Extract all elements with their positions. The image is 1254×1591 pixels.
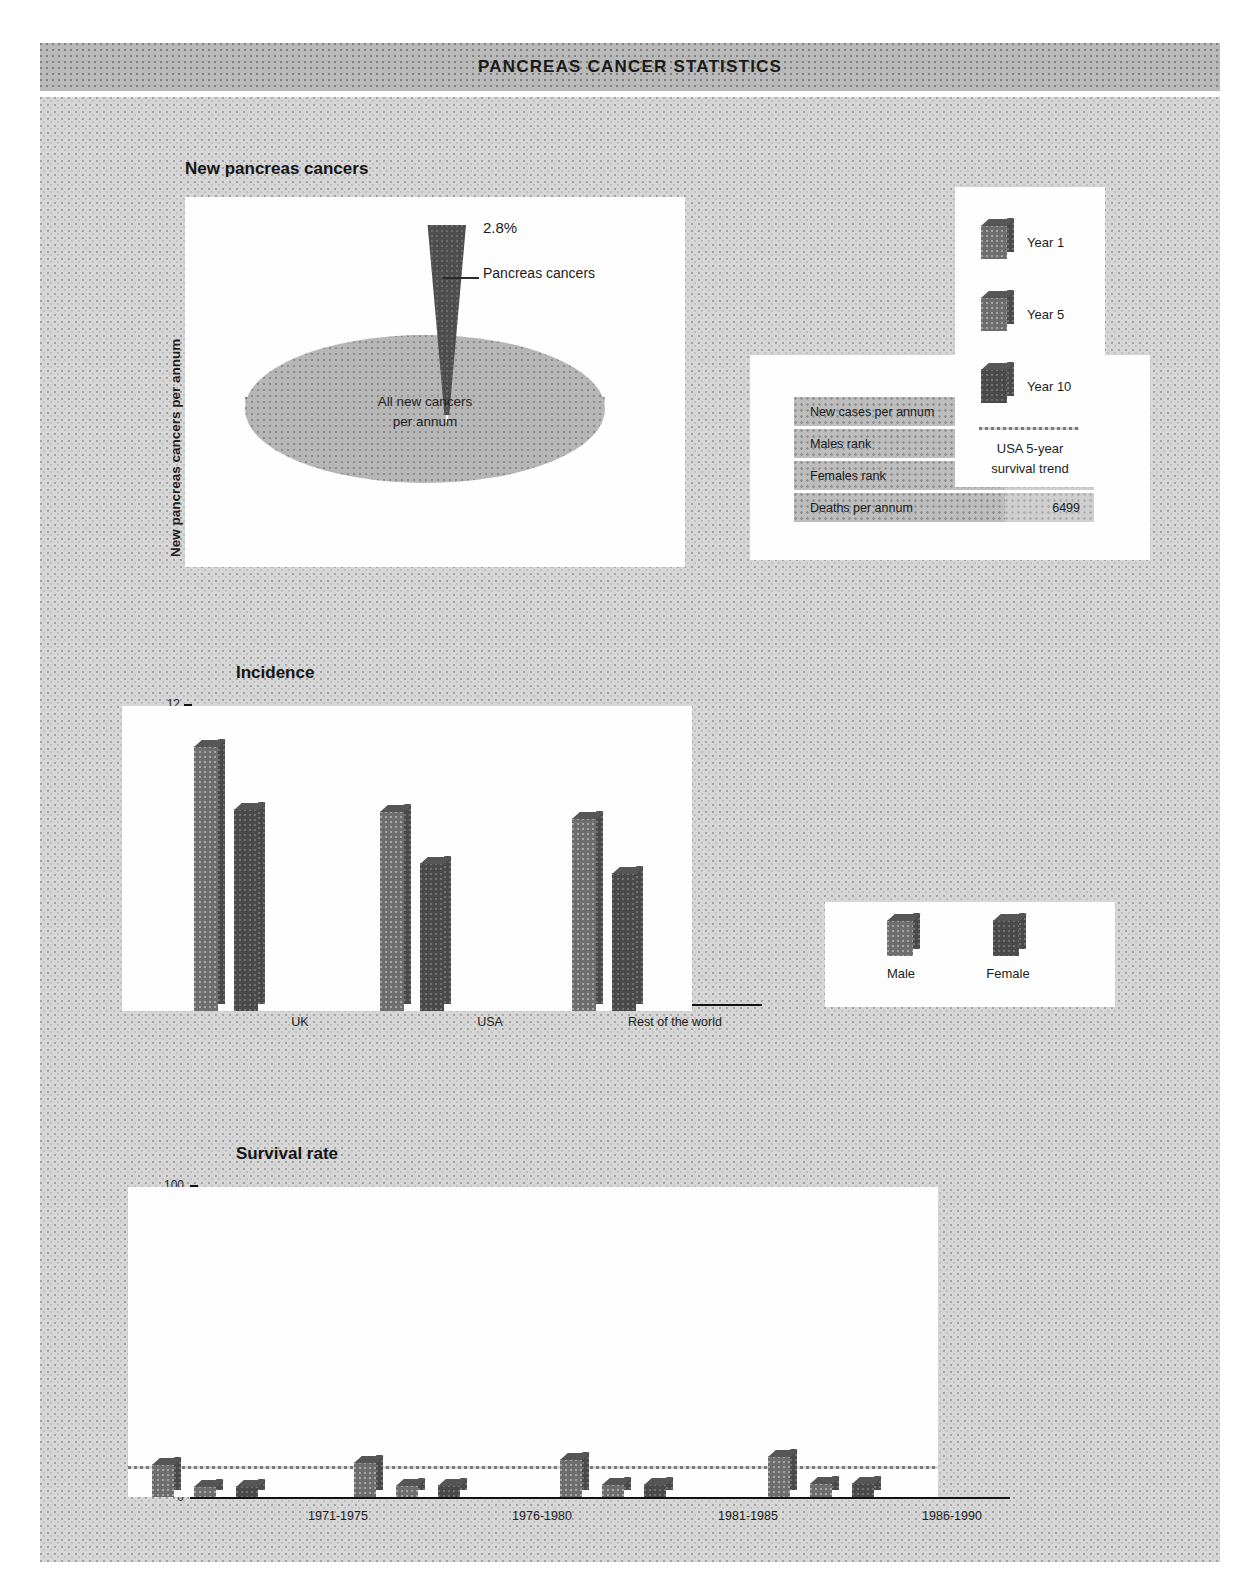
- table-cell-value: 6499: [1005, 493, 1094, 522]
- legend-swatch-year10: [981, 369, 1007, 403]
- survival-x-axis: [196, 1497, 1010, 1499]
- legend-swatch-female: [993, 920, 1019, 956]
- pie-chart-title: New pancreas cancers: [185, 159, 368, 179]
- pie-slice-label: Pancreas cancers: [483, 265, 595, 281]
- legend-trend-line: [979, 427, 1079, 430]
- header-band: PANCREAS CANCER STATISTICS: [40, 43, 1220, 91]
- legend-label-year10: Year 10: [1027, 379, 1071, 394]
- bar-uk-female: [234, 809, 258, 1011]
- survival-legend: Year 1 Year 5 Year 10 USA 5-year surviva…: [955, 187, 1105, 487]
- legend-swatch-year5: [981, 297, 1007, 331]
- bar-1986-1990-year5: [810, 1483, 832, 1497]
- table-cell-key: Deaths per annum: [794, 493, 1005, 522]
- bar-1986-1990-year1: [768, 1456, 790, 1497]
- table-row: Deaths per annum 6499: [794, 493, 1094, 522]
- legend-label-male: Male: [875, 966, 927, 981]
- legend-label-year1: Year 1: [1027, 235, 1064, 250]
- usa-survival-trend-line: [128, 1466, 938, 1469]
- bar-row-male: [572, 818, 596, 1011]
- survival-xtick-1981-1985: 1981-1985: [678, 1509, 818, 1523]
- pie-chart-panel: All new cancers per annum 2.8% Pancreas …: [185, 197, 685, 567]
- incidence-xtick-usa: USA: [430, 1015, 550, 1029]
- survival-plot-area: [128, 1187, 938, 1497]
- bar-1986-1990-year10: [852, 1483, 874, 1497]
- pie-center-label: All new cancers per annum: [315, 392, 535, 433]
- bar-uk-male: [194, 746, 218, 1011]
- bar-1976-1980-year10: [438, 1485, 460, 1497]
- bar-usa-male: [380, 811, 404, 1011]
- legend-label-female: Female: [975, 966, 1041, 981]
- incidence-xtick-uk: UK: [240, 1015, 360, 1029]
- pie-y-axis-label: New pancreas cancers per annum: [168, 339, 183, 557]
- legend-swatch-male: [887, 920, 913, 956]
- incidence-plot-area: [122, 706, 692, 1011]
- bar-1981-1985-year10: [644, 1484, 666, 1497]
- bar-1971-1975-year5: [194, 1486, 216, 1497]
- legend-label-year5: Year 5: [1027, 307, 1064, 322]
- bar-1971-1975-year10: [236, 1486, 258, 1497]
- pie-center-label-line2: per annum: [315, 412, 535, 432]
- survival-xtick-1971-1975: 1971-1975: [268, 1509, 408, 1523]
- bar-1971-1975-year1: [152, 1464, 174, 1497]
- incidence-legend: Male Female: [825, 902, 1115, 1007]
- pie-center-label-line1: All new cancers: [315, 392, 535, 412]
- legend-label-trend-line2: survival trend: [969, 461, 1091, 476]
- survival-xtick-1976-1980: 1976-1980: [472, 1509, 612, 1523]
- incidence-xtick-rest-of-world: Rest of the world: [595, 1015, 755, 1029]
- bar-1976-1980-year1: [354, 1462, 376, 1497]
- bar-1976-1980-year5: [396, 1485, 418, 1497]
- bar-1981-1985-year1: [560, 1459, 582, 1497]
- survival-tick: [190, 1497, 197, 1499]
- pie-percent-label: 2.8%: [483, 219, 517, 236]
- bar-1981-1985-year5: [602, 1484, 624, 1497]
- poster-body: New pancreas cancers New pancreas cancer…: [40, 97, 1220, 1562]
- incidence-chart-title: Incidence: [236, 663, 314, 683]
- poster-page: PANCREAS CANCER STATISTICS New pancreas …: [0, 0, 1254, 1591]
- legend-label-trend-line1: USA 5-year: [969, 441, 1091, 456]
- survival-chart-title: Survival rate: [236, 1144, 338, 1164]
- survival-xtick-1986-1990: 1986-1990: [882, 1509, 1022, 1523]
- page-title: PANCREAS CANCER STATISTICS: [40, 43, 1220, 91]
- pie-callout-line: [443, 277, 479, 279]
- legend-swatch-year1: [981, 225, 1007, 259]
- bar-row-female: [612, 873, 636, 1011]
- bar-usa-female: [420, 863, 444, 1011]
